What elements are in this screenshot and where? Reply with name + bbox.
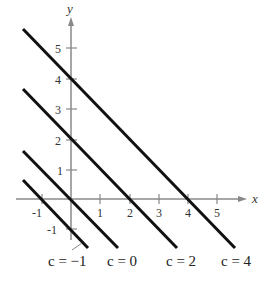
label-c-2: c = 2 — [166, 253, 196, 269]
y-tick-label: 4 — [55, 73, 61, 87]
diagram-canvas: x y -1 1 2 3 4 5 5 4 3 2 1 -1 — [0, 0, 261, 287]
label-c-0: c = 0 — [107, 253, 137, 269]
y-tick-label: 5 — [55, 42, 61, 56]
x-axis-arrow-icon — [238, 196, 247, 202]
label-c-4: c = 4 — [221, 253, 252, 269]
y-axis-label: y — [65, 1, 73, 16]
x-ticks: -1 1 2 3 4 5 — [32, 194, 220, 220]
y-tick-label: 1 — [57, 164, 63, 178]
x-tick-label: 4 — [185, 206, 191, 220]
y-tick-label: 3 — [55, 103, 61, 117]
y-axis-arrow-icon — [68, 17, 74, 26]
x-tick-label: 1 — [97, 206, 103, 220]
x-axis-label: x — [251, 191, 258, 206]
y-tick-label: -1 — [47, 223, 57, 237]
label-c-minus-1: c = −1 — [48, 253, 87, 269]
y-tick-label: 2 — [55, 134, 61, 148]
x-tick-label: 3 — [156, 206, 162, 220]
line-labels: c = −1 c = 0 c = 2 c = 4 — [48, 253, 252, 269]
label-pointer — [72, 243, 82, 250]
x-tick-label: 2 — [127, 206, 133, 220]
x-tick-label: 5 — [214, 206, 220, 220]
x-tick-label: -1 — [32, 206, 42, 220]
